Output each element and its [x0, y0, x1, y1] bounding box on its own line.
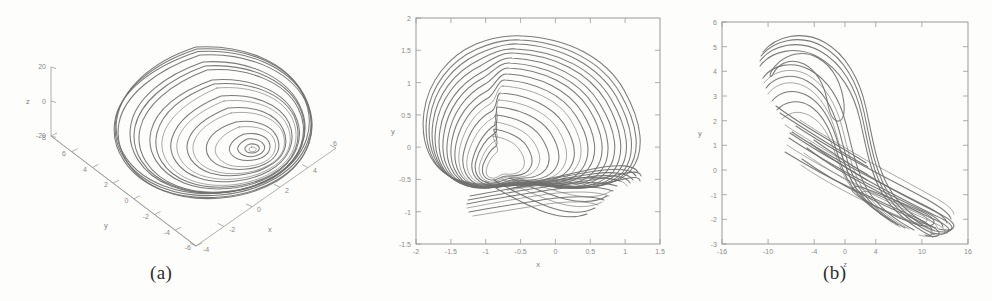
panel-a-ylabel: y [104, 221, 108, 230]
panel-c-plot: -16 -10 -4 0 4 10 16 z [664, 0, 992, 301]
panel-a-xtick-0: 0 [257, 206, 261, 213]
panel-a-ytick-4: 4 [83, 166, 87, 173]
panel-c-ytick-8: 5 [713, 44, 717, 51]
panel-b-xtick-1: -1.5 [445, 248, 457, 255]
panel-a-ztick-0: 20 [38, 63, 46, 70]
panel-a-xtick-m4: -4 [203, 246, 209, 253]
panel-a-plot: 20 0 -20 z 8 6 4 [0, 0, 340, 301]
panel-b-plot: -2 -1.5 -1 -0.5 0 0.5 1 1.5 x [336, 0, 666, 301]
panel-c-ytick-1: -2 [711, 216, 717, 223]
panel-c-xtick-4: 4 [874, 248, 878, 255]
panel-c-xtick-0: -16 [717, 248, 727, 255]
panel-a-ytick-2: 2 [104, 181, 108, 188]
panel-b-ytick-0: -1.5 [399, 241, 411, 248]
panel-c-xtick-3: 0 [843, 248, 847, 255]
panel-b-xtick-0: -2 [413, 248, 419, 255]
panel-a-ytick-m4: -4 [164, 229, 170, 236]
panel-c-trajectory [760, 36, 954, 237]
panel-c-xtick-1: -10 [763, 248, 773, 255]
attractor-figure: 20 0 -20 z 8 6 4 [0, 0, 992, 301]
panel-b-ylabel: y [391, 127, 395, 136]
panel-a-xtick-2: 2 [285, 187, 289, 194]
panel-b-xtick-5: 0.5 [585, 248, 595, 255]
panel-a: 20 0 -20 z 8 6 4 [0, 0, 340, 301]
panel-a-ztick-1: 0 [42, 98, 46, 105]
panel-c-ytick-2: -1 [711, 192, 717, 199]
panel-b-xlabel: x [536, 260, 540, 269]
panel-c-xlabel: z [843, 260, 847, 269]
panel-b-xtick-2: -1 [483, 248, 489, 255]
panel-b-xtick-3: -0.5 [515, 248, 527, 255]
panel-a-ytick-m2: -2 [143, 213, 149, 220]
panel-c-ytick-6: 3 [713, 93, 717, 100]
panel-b: -2 -1.5 -1 -0.5 0 0.5 1 1.5 x [336, 0, 666, 301]
panel-c-ytick-3: 0 [713, 167, 717, 174]
panel-c-xtick-5: 10 [918, 248, 926, 255]
panel-b-ytick-5: 1 [407, 80, 411, 87]
panel-a-z-ticks: 20 0 -20 z [26, 63, 56, 139]
panel-a-ytick-0: 0 [125, 197, 129, 204]
panel-b-trajectory [423, 36, 641, 217]
panel-b-ytick-4: 0.5 [401, 112, 411, 119]
panel-a-ytick-6: 6 [62, 150, 66, 157]
panel-b-xtick-6: 1 [623, 248, 627, 255]
panel-a-trajectory [114, 47, 312, 199]
panel-a-ytick-8: 8 [42, 134, 46, 141]
panel-b-ytick-3: 0 [407, 144, 411, 151]
panel-b-ytick-2: -0.5 [399, 176, 411, 183]
panel-c-ytick-4: 1 [713, 142, 717, 149]
panel-c: -16 -10 -4 0 4 10 16 z [664, 0, 992, 301]
panel-b-xtick-4: 0 [553, 248, 557, 255]
panel-c-ytick-9: 6 [713, 19, 717, 26]
panel-b-ytick-1: -1 [405, 209, 411, 216]
panel-c-ylabel: y [698, 129, 702, 138]
panel-b-ytick-6: 1.5 [401, 47, 411, 54]
panel-a-zlabel: z [26, 97, 30, 106]
panel-b-x-ticks: -2 -1.5 -1 -0.5 0 0.5 1 1.5 x [413, 18, 665, 269]
panel-a-ytick-m6: -6 [185, 244, 191, 251]
panel-b-ytick-7: 2 [407, 15, 411, 22]
panel-a-xlabel: x [268, 225, 272, 234]
panel-c-ytick-5: 2 [713, 118, 717, 125]
panel-c-xtick-2: -4 [811, 248, 817, 255]
panel-a-xtick-m2: -2 [229, 226, 235, 233]
panel-c-ytick-0: -3 [711, 241, 717, 248]
panel-a-caption: (a) [150, 262, 172, 284]
panel-c-xtick-6: 16 [964, 248, 972, 255]
panel-a-xtick-4: 4 [313, 167, 317, 174]
panel-c-ytick-7: 4 [713, 68, 717, 75]
